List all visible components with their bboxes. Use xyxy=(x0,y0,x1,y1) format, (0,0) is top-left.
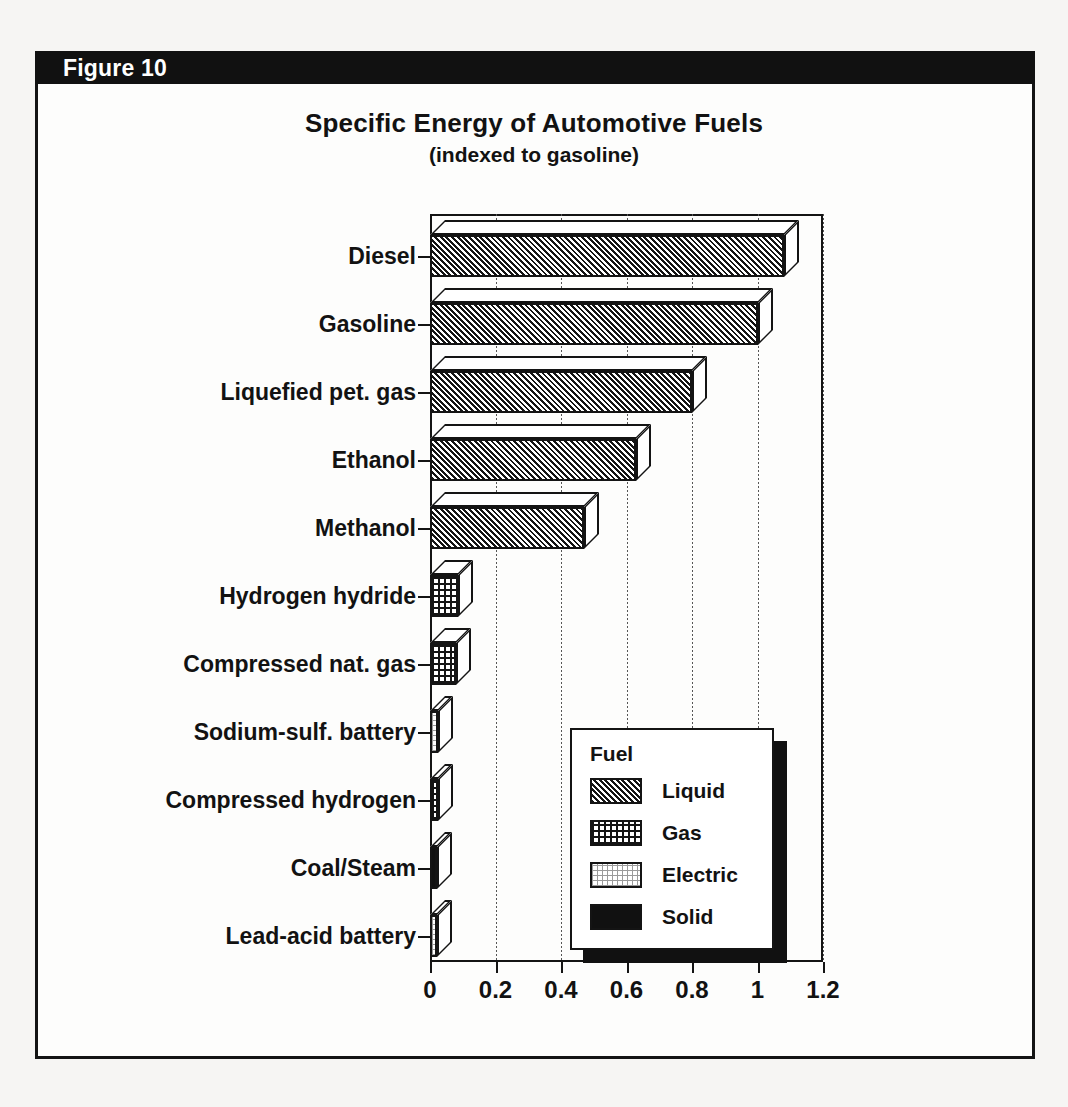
category-tick xyxy=(418,392,430,394)
category-label: Methanol xyxy=(315,514,416,541)
bar-top-face xyxy=(430,424,651,439)
category-label: Lead-acid battery xyxy=(226,922,416,949)
category-tick xyxy=(418,256,430,258)
figure-header-bar: Figure 10 xyxy=(35,51,1035,84)
bar-electric xyxy=(430,696,453,753)
bar-liquid xyxy=(430,220,799,277)
bar-front-face xyxy=(430,439,636,481)
bar-solid xyxy=(430,832,452,889)
legend-label: Gas xyxy=(662,820,702,846)
category-label: Liquefied pet. gas xyxy=(220,378,416,405)
bar-front-face xyxy=(430,303,758,345)
category-tick xyxy=(418,732,430,734)
bar-liquid xyxy=(430,356,707,413)
x-axis-tick xyxy=(561,962,563,973)
category-tick xyxy=(418,800,430,802)
legend-swatch-gas xyxy=(590,820,642,846)
bar-gas xyxy=(430,560,473,617)
bar-front-face xyxy=(430,915,437,957)
figure-number-label: Figure 10 xyxy=(63,55,167,82)
category-label: Diesel xyxy=(348,242,416,269)
legend-label: Liquid xyxy=(662,778,725,804)
legend-swatch-solid xyxy=(590,904,642,930)
bar-front-face xyxy=(430,711,438,753)
category-tick xyxy=(418,868,430,870)
category-label: Gasoline xyxy=(319,310,416,337)
legend-label: Solid xyxy=(662,904,713,930)
x-axis-tick xyxy=(627,962,629,973)
bar-front-face xyxy=(430,575,458,617)
x-axis-tick-label: 0.6 xyxy=(610,976,643,1004)
category-label: Compressed hydrogen xyxy=(166,786,417,813)
bar-top-face xyxy=(430,492,599,507)
legend-box[interactable]: Fuel LiquidGasElectricSolid xyxy=(570,728,774,950)
category-tick xyxy=(418,596,430,598)
category-label: Hydrogen hydride xyxy=(219,582,416,609)
bar-top-face xyxy=(430,220,799,235)
bar-front-face xyxy=(430,779,438,821)
x-axis-tick xyxy=(430,962,432,973)
chart-subtitle: (indexed to gasoline) xyxy=(0,143,1068,167)
x-axis-tick-label: 0.4 xyxy=(544,976,577,1004)
x-axis-tick xyxy=(758,962,760,973)
legend-label: Electric xyxy=(662,862,738,888)
bar-top-face xyxy=(430,356,707,371)
category-tick xyxy=(418,936,430,938)
bar-gas xyxy=(430,764,453,821)
x-axis-tick-label: 1 xyxy=(751,976,764,1004)
category-label: Compressed nat. gas xyxy=(183,650,416,677)
x-axis-tick-label: 0 xyxy=(423,976,436,1004)
x-axis-tick xyxy=(823,962,825,973)
category-label: Coal/Steam xyxy=(291,854,416,881)
gridline xyxy=(823,214,824,962)
x-axis-tick-label: 0.8 xyxy=(675,976,708,1004)
bar-gas xyxy=(430,628,471,685)
legend-swatch-liquid xyxy=(590,778,642,804)
bar-liquid xyxy=(430,492,599,549)
category-label: Ethanol xyxy=(332,446,416,473)
document-page: Figure 10 Specific Energy of Automotive … xyxy=(0,0,1068,1107)
bar-front-face xyxy=(430,371,692,413)
bar-top-face xyxy=(430,288,773,303)
bar-electric xyxy=(430,900,452,957)
category-tick xyxy=(418,528,430,530)
category-label: Sodium-sulf. battery xyxy=(194,718,416,745)
category-tick xyxy=(418,460,430,462)
x-axis-tick-label: 1.2 xyxy=(806,976,839,1004)
legend-title: Fuel xyxy=(590,742,633,766)
bar-front-face xyxy=(430,847,437,889)
category-tick xyxy=(418,664,430,666)
x-axis-tick-label: 0.2 xyxy=(479,976,512,1004)
bar-front-face xyxy=(430,507,584,549)
category-tick xyxy=(418,324,430,326)
x-axis-tick xyxy=(692,962,694,973)
legend-swatch-electric xyxy=(590,862,642,888)
bar-front-face xyxy=(430,235,784,277)
bar-liquid xyxy=(430,424,651,481)
bar-front-face xyxy=(430,643,456,685)
x-axis-tick xyxy=(496,962,498,973)
bar-liquid xyxy=(430,288,773,345)
chart-title: Specific Energy of Automotive Fuels xyxy=(0,108,1068,139)
